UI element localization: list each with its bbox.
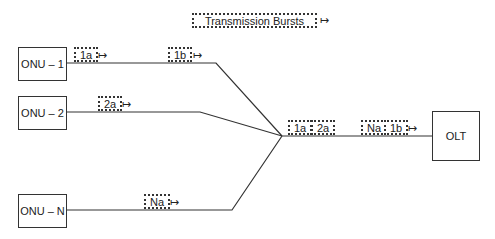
onu-2: ONU – 2 [18,96,67,130]
trunk-burst-1a: 1a [288,120,312,135]
burst-arrow-icon: ↦ [98,49,107,62]
burst-arrow-icon: ↦ [170,196,179,209]
burst-na: Na [144,194,170,209]
burst-arrow-icon: ↦ [193,49,202,62]
olt: OLT [432,111,480,161]
burst-2a: 2a [98,96,122,111]
onu-n: ONU – N [18,194,67,228]
burst-1a: 1a [74,47,98,62]
burst-arrow-icon: ↦ [122,98,131,111]
trunk-arrow-icon: ↦ [408,122,417,135]
legend-arrow-icon: ↦ [320,14,329,27]
trunk-burst-2a: 2a [311,120,335,135]
legend-burst: Transmission Bursts [192,13,317,28]
trunk-burst-1b: 1b [384,120,408,135]
onu-1: ONU – 1 [18,47,67,81]
burst-1b: 1b [168,47,192,62]
fiber-lines [0,0,495,239]
